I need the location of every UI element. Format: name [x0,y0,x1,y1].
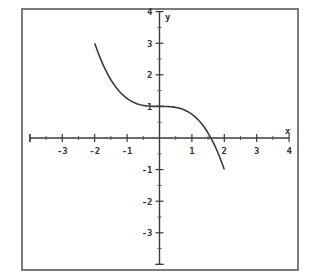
x-tick-label: -1 [122,146,133,156]
y-axis-label: y [165,12,171,22]
x-tick-label: -2 [89,146,100,156]
x-tick-label: 2 [222,146,227,156]
y-tick-label: 4 [147,7,153,17]
x-tick-label: -3 [57,146,68,156]
y-tick-label: 3 [147,39,152,49]
x-tick-label: 4 [286,146,292,156]
y-tick-label: -1 [142,165,153,175]
y-tick-label: 2 [147,70,152,80]
function-plot: -3-2-112344321-1-2-3 x y [0,0,311,277]
y-tick-label: -2 [142,197,153,207]
x-tick-label: 1 [189,146,194,156]
x-axis-label: x [285,126,291,136]
y-tick-label: -3 [142,228,153,238]
x-tick-label: 3 [254,146,259,156]
